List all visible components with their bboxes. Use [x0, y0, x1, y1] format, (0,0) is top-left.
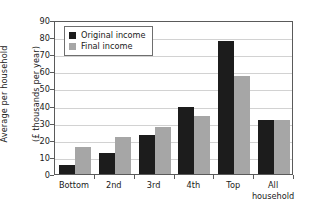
- bar-original-income: [178, 107, 194, 174]
- legend-item: Final income: [69, 41, 146, 52]
- y-axis-tick-label: 0: [28, 171, 50, 179]
- y-axis-tick-label: 20: [28, 137, 50, 145]
- bar-group: [258, 22, 290, 174]
- bar-original-income: [59, 165, 75, 174]
- x-axis-tick-label-secondary: household: [252, 191, 294, 202]
- y-axis-tick-label: 50: [28, 85, 50, 93]
- x-axis-tick-label-primary: Bottom: [59, 180, 89, 190]
- bar-final-income: [155, 127, 171, 174]
- x-axis-tick-label: 2nd: [106, 180, 122, 191]
- x-axis-tick-labels: Bottom2nd3rd4thTopAllhousehold: [54, 180, 293, 214]
- bar-original-income: [139, 135, 155, 174]
- x-axis-tick-label-primary: Top: [226, 180, 240, 190]
- y-axis-tick-label: 30: [28, 120, 50, 128]
- x-axis-tick-mark: [134, 175, 135, 179]
- x-axis-tick-mark: [293, 175, 294, 179]
- bar-original-income: [218, 41, 234, 174]
- x-axis-tick-label-primary: 2nd: [106, 180, 122, 190]
- x-axis-tick-label: 4th: [187, 180, 201, 191]
- x-axis-tick-label: Bottom: [59, 180, 89, 191]
- y-axis-tick-label: 40: [28, 102, 50, 110]
- y-axis-tick-label: 10: [28, 154, 50, 162]
- legend-label: Final income: [81, 42, 132, 51]
- x-axis-tick-label: Top: [226, 180, 240, 191]
- bar-original-income: [99, 153, 115, 174]
- y-axis-tick-labels: 0102030405060708090: [28, 21, 50, 175]
- x-axis-tick-label: 3rd: [147, 180, 161, 191]
- bar-final-income: [194, 116, 210, 174]
- y-axis-tick-label: 60: [28, 68, 50, 76]
- bar-original-income: [258, 120, 274, 174]
- bar-group: [178, 22, 210, 174]
- bar-final-income: [274, 120, 290, 174]
- x-axis-tick-mark: [94, 175, 95, 179]
- bar-group: [218, 22, 250, 174]
- legend-swatch-original: [69, 32, 76, 39]
- y-axis-tick-mark: [50, 175, 54, 176]
- legend: Original incomeFinal income: [64, 26, 153, 56]
- bar-final-income: [234, 76, 250, 174]
- bar-chart: Average per household (£ thousands per y…: [0, 0, 310, 216]
- bar-final-income: [75, 147, 91, 174]
- x-axis-tick-mark: [213, 175, 214, 179]
- x-axis-tick-label-primary: 4th: [187, 180, 201, 190]
- y-axis-tick-label: 90: [28, 17, 50, 25]
- x-axis-tick-label-primary: 3rd: [147, 180, 161, 190]
- y-axis-tick-label: 70: [28, 51, 50, 59]
- x-axis-tick-mark: [253, 175, 254, 179]
- x-axis-tick-mark: [174, 175, 175, 179]
- y-axis-title-line-1: Average per household: [0, 19, 10, 169]
- x-axis-tick-label: Allhousehold: [252, 180, 294, 201]
- legend-item: Original income: [69, 30, 146, 41]
- bar-final-income: [115, 137, 131, 174]
- x-axis-tick-label-primary: All: [268, 180, 278, 190]
- y-axis-tick-label: 80: [28, 34, 50, 42]
- legend-label: Original income: [81, 31, 146, 40]
- legend-swatch-final: [69, 43, 76, 50]
